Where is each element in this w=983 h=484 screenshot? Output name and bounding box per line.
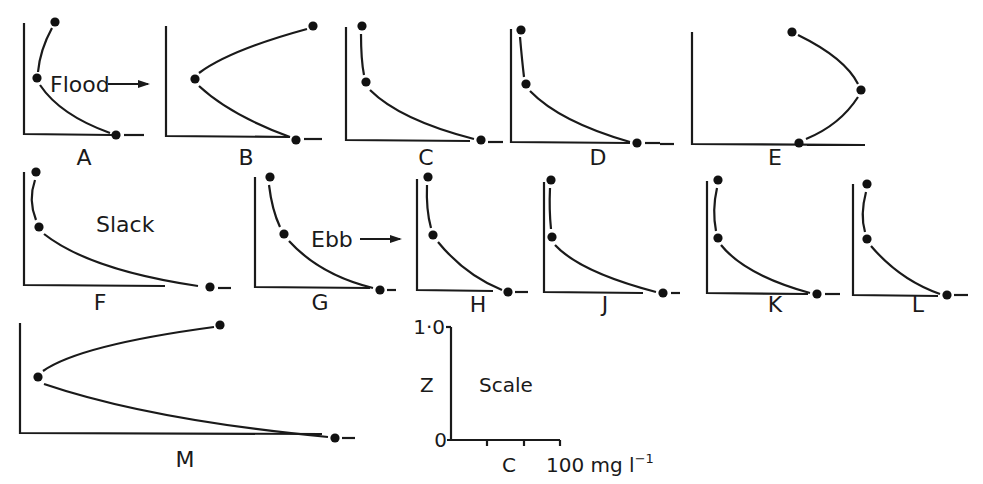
profile-curve bbox=[43, 327, 214, 371]
scale-y-axis-label: Z bbox=[420, 373, 434, 397]
data-point bbox=[942, 290, 951, 299]
profile-curve bbox=[44, 384, 328, 437]
profile-curve bbox=[370, 90, 474, 139]
data-point bbox=[794, 138, 803, 147]
profile-curve bbox=[32, 180, 36, 220]
scale-legend: 1·0 0 Z Scale C 100 mg l−1 bbox=[413, 315, 654, 477]
data-point bbox=[205, 282, 214, 291]
data-point bbox=[357, 21, 366, 30]
scale-y-tick-top: 1·0 bbox=[413, 315, 445, 339]
profile-panel-m: M bbox=[20, 320, 355, 472]
panel-axes bbox=[166, 26, 290, 137]
profile-panel-k: K bbox=[707, 175, 840, 317]
scale-x-max-label: 100 mg l−1 bbox=[546, 451, 654, 477]
data-point bbox=[812, 289, 821, 298]
profile-panels: ABCDEFGHJKLM bbox=[20, 17, 968, 472]
profile-panel-b: B bbox=[166, 21, 322, 170]
panel-label: M bbox=[176, 447, 195, 472]
profile-curve bbox=[555, 245, 656, 292]
panel-label: H bbox=[470, 292, 487, 317]
data-point bbox=[428, 230, 437, 239]
data-point bbox=[476, 135, 485, 144]
profile-curve bbox=[550, 188, 551, 229]
flood-annotation: Flood bbox=[50, 72, 148, 97]
slack-label: Slack bbox=[96, 212, 155, 237]
slack-annotation: Slack bbox=[96, 212, 155, 237]
ebb-label: Ebb bbox=[311, 227, 353, 252]
profile-curve bbox=[199, 86, 290, 137]
data-point bbox=[50, 17, 59, 26]
data-point bbox=[713, 175, 722, 184]
data-point bbox=[308, 21, 317, 30]
panel-label: J bbox=[600, 292, 609, 317]
panel-label: E bbox=[768, 145, 782, 170]
panel-axes bbox=[417, 179, 493, 291]
data-point bbox=[33, 372, 42, 381]
profile-curve bbox=[520, 37, 524, 77]
profile-curve bbox=[721, 245, 810, 293]
scale-unit-exponent: −1 bbox=[635, 451, 654, 466]
data-point bbox=[521, 79, 530, 88]
scale-x-axis-label: C bbox=[502, 453, 516, 477]
data-point bbox=[215, 320, 224, 329]
panel-axes bbox=[20, 323, 322, 434]
data-point bbox=[291, 135, 300, 144]
ebb-annotation: Ebb bbox=[311, 227, 400, 252]
panel-axes bbox=[544, 182, 643, 293]
scale-y-tick-bottom: 0 bbox=[434, 428, 447, 452]
data-point bbox=[516, 25, 525, 34]
data-point bbox=[862, 179, 871, 188]
profile-panel-j: J bbox=[544, 175, 680, 317]
profile-curve bbox=[530, 91, 630, 142]
panel-label: L bbox=[912, 292, 925, 317]
profile-curve bbox=[806, 97, 858, 139]
data-point bbox=[111, 130, 120, 139]
profile-curve bbox=[199, 29, 307, 73]
profile-curve bbox=[798, 35, 858, 84]
panel-label: C bbox=[418, 145, 433, 170]
data-point bbox=[31, 167, 40, 176]
data-point bbox=[375, 285, 384, 294]
profile-curve bbox=[427, 185, 431, 228]
profile-curve bbox=[863, 192, 866, 232]
tidal-sediment-profiles-figure: ABCDEFGHJKLM Flood Slack Ebb 1·0 0 Z Sca… bbox=[0, 0, 983, 484]
panel-label: K bbox=[768, 292, 783, 317]
data-point bbox=[423, 172, 432, 181]
data-point bbox=[787, 27, 796, 36]
profile-curve bbox=[44, 234, 198, 286]
data-point bbox=[279, 229, 288, 238]
profile-curve bbox=[361, 34, 364, 75]
profile-curve bbox=[269, 185, 280, 227]
data-point bbox=[856, 85, 865, 94]
profile-panel-f: F bbox=[24, 167, 231, 315]
profile-panel-e: E bbox=[660, 27, 866, 170]
panel-label: F bbox=[94, 290, 107, 315]
flood-label: Flood bbox=[50, 72, 110, 97]
scale-x-max-value: 100 mg l bbox=[546, 453, 635, 477]
data-point bbox=[547, 232, 556, 241]
scale-title: Scale bbox=[479, 373, 533, 397]
data-point bbox=[658, 288, 667, 297]
data-point bbox=[862, 234, 871, 243]
data-point bbox=[632, 138, 641, 147]
profile-curve bbox=[38, 28, 52, 72]
panel-label: G bbox=[311, 290, 328, 315]
profile-panel-l: L bbox=[853, 179, 968, 317]
panel-label: A bbox=[76, 145, 91, 170]
profile-curve bbox=[714, 188, 717, 231]
data-point bbox=[361, 77, 370, 86]
data-point bbox=[713, 233, 722, 242]
data-point bbox=[265, 172, 274, 181]
panel-axes bbox=[692, 32, 865, 145]
profile-panel-c: C bbox=[346, 21, 503, 170]
profile-curve bbox=[438, 242, 502, 290]
profile-panel-d: D bbox=[511, 25, 660, 170]
data-point bbox=[34, 222, 43, 231]
data-point bbox=[32, 73, 41, 82]
profile-curve bbox=[871, 246, 940, 294]
panel-label: D bbox=[590, 145, 607, 170]
panel-label: B bbox=[238, 145, 253, 170]
profile-panel-h: H bbox=[417, 172, 528, 317]
data-point bbox=[190, 74, 199, 83]
data-point bbox=[546, 175, 555, 184]
